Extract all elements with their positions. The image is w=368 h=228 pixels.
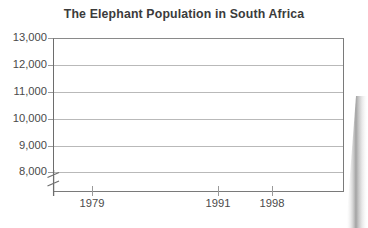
gridline — [54, 65, 343, 66]
gridline — [54, 119, 343, 120]
gridline — [54, 146, 343, 147]
chart-figure: The Elephant Population in South Africa … — [0, 0, 368, 228]
y-axis-tick-label: 10,000 — [0, 112, 47, 124]
axis-break-zigzag-icon — [44, 170, 66, 196]
x-axis-tick-label: 1979 — [62, 197, 122, 209]
gridline — [54, 172, 343, 173]
page-edge-shadow-artifact — [342, 96, 368, 228]
chart-title: The Elephant Population in South Africa — [0, 7, 368, 21]
y-axis-tick-label: 11,000 — [0, 85, 47, 97]
y-axis-tick-label: 8,000 — [0, 165, 47, 177]
y-axis-tick-label: 9,000 — [0, 139, 47, 151]
gridline — [54, 92, 343, 93]
y-axis-tick-label: 12,000 — [0, 58, 47, 70]
y-axis-tick-label: 13,000 — [0, 31, 47, 43]
x-axis-tick-mark — [272, 186, 273, 196]
x-axis-tick-mark — [218, 186, 219, 196]
x-axis-tick-label: 1998 — [242, 197, 302, 209]
x-axis-tick-mark — [92, 186, 93, 196]
x-axis-tick-label: 1991 — [188, 197, 248, 209]
plot-area — [53, 38, 344, 192]
